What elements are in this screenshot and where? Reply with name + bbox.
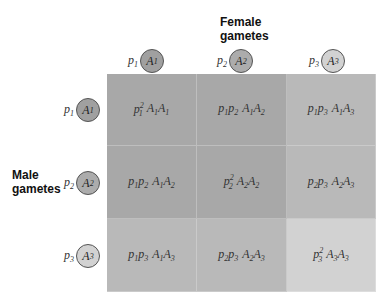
- genotype-label: A2A3: [242, 247, 265, 263]
- female-allele-3: p3 A3: [309, 49, 345, 73]
- genotype-label: A3A3: [326, 247, 349, 263]
- genotype-frequency: p23: [313, 246, 322, 263]
- freq-label: p1: [64, 102, 74, 118]
- genotype-label: A2A3: [332, 174, 355, 190]
- genotype-frequency: p21: [134, 101, 143, 118]
- allele-circle-icon: A3: [76, 244, 100, 268]
- freq-label: p3: [309, 53, 319, 69]
- female-gametes-header: Female gametes: [220, 15, 269, 43]
- allele-circle-icon: A2: [76, 171, 100, 195]
- genotype-frequency: p1p2: [218, 101, 238, 117]
- genotype-cell: p2p3A2A3: [287, 146, 376, 219]
- genotype-frequency: p2p3: [218, 247, 238, 263]
- female-header-line2: gametes: [220, 29, 269, 43]
- genotype-label: A1A3: [152, 247, 175, 263]
- male-allele-1: p1 A1: [64, 98, 100, 122]
- female-header-line1: Female: [220, 15, 269, 29]
- genotype-label: A1A1: [147, 101, 170, 117]
- genotype-label: A1A3: [332, 101, 355, 117]
- male-gametes-header: Male gametes: [12, 168, 61, 196]
- female-allele-2: p2 A2: [217, 49, 253, 73]
- genotype-grid: p21A1A1p1p2A1A2p1p3A1A3p1p2A1A2p22A2A2p2…: [107, 74, 376, 292]
- allele-circle-icon: A3: [321, 49, 345, 73]
- genotype-label: A1A2: [152, 174, 175, 190]
- genotype-label: A1A2: [242, 101, 265, 117]
- genotype-cell: p1p2A1A2: [197, 74, 287, 146]
- genotype-cell: p22A2A2: [197, 146, 287, 219]
- freq-label: p1: [128, 53, 138, 69]
- genotype-label: A2A2: [237, 174, 260, 190]
- male-allele-2: p2 A2: [64, 171, 100, 195]
- freq-label: p2: [217, 53, 227, 69]
- genotype-cell: p1p2A1A2: [107, 146, 197, 219]
- genotype-frequency: p1p3: [128, 247, 148, 263]
- genotype-frequency: p1p2: [128, 174, 148, 190]
- allele-circle-icon: A1: [140, 49, 164, 73]
- freq-label: p2: [64, 175, 74, 191]
- genotype-cell: p23A3A3: [287, 219, 376, 292]
- genotype-cell: p1p3A1A3: [107, 219, 197, 292]
- allele-circle-icon: A1: [76, 98, 100, 122]
- male-header-line2: gametes: [12, 182, 61, 196]
- genotype-frequency: p1p3: [308, 101, 328, 117]
- genotype-cell: p2p3A2A3: [197, 219, 287, 292]
- genotype-frequency: p22: [224, 173, 233, 190]
- male-allele-3: p3 A3: [64, 244, 100, 268]
- male-header-line1: Male: [12, 168, 61, 182]
- genotype-frequency: p2p3: [308, 174, 328, 190]
- genotype-cell: p21A1A1: [107, 74, 197, 146]
- allele-circle-icon: A2: [229, 49, 253, 73]
- female-allele-1: p1 A1: [128, 49, 164, 73]
- genotype-cell: p1p3A1A3: [287, 74, 376, 146]
- freq-label: p3: [64, 248, 74, 264]
